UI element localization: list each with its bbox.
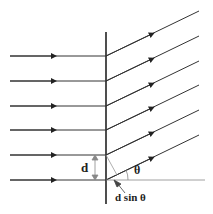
angle-label: θ <box>134 163 140 178</box>
spacing-arrow <box>92 155 98 180</box>
angle-arc <box>126 170 128 180</box>
spacing-label: d <box>81 160 88 176</box>
path-difference-line <box>106 155 117 175</box>
diffraction-diagram <box>0 0 213 214</box>
diffracted-rays <box>106 11 199 180</box>
path-difference-label: d sin θ <box>115 191 146 203</box>
incident-rays <box>10 56 106 180</box>
